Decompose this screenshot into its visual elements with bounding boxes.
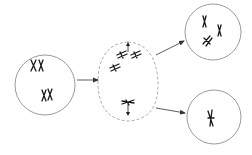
cell-division-diagram [0, 0, 252, 155]
spindle-pole-bottom [126, 104, 130, 116]
chromosome [218, 25, 221, 36]
arrow-to-daughter-top [156, 41, 184, 55]
chromosome [208, 110, 214, 126]
chromosome [203, 36, 212, 46]
chromosome [131, 51, 141, 58]
chromosome [122, 100, 134, 105]
arrow-to-daughter-bottom [156, 108, 185, 113]
chromosome-pair-bottom [42, 89, 52, 101]
chromosome [203, 16, 206, 27]
dividing-cell [98, 42, 158, 121]
chromosome [117, 51, 127, 58]
daughter-cell-bottom [187, 90, 241, 144]
chromosome [110, 64, 120, 71]
daughter-cell-top [185, 4, 241, 60]
chromosome-pair-top [31, 60, 43, 71]
parent-cell [15, 55, 75, 115]
spindle-pole-top [126, 42, 130, 52]
